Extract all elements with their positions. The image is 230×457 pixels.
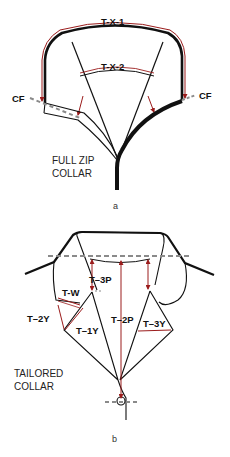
- full-zip-collar-figure: T-X-1 T-X-2 CF CF FULL ZIP COLLAR a: [12, 16, 212, 211]
- zipper-neckline-right: [117, 101, 182, 190]
- figure-b-caption: b: [112, 434, 117, 444]
- tailored-collar-figure: T–3P T-W T–2Y T–1Y T–2P T–3Y TAILORED CO…: [14, 232, 214, 444]
- tw-measure: [58, 298, 80, 305]
- t3y-measure: [138, 330, 171, 331]
- cf-label-left: CF: [12, 93, 25, 104]
- t1y-label: T–1Y: [76, 325, 99, 336]
- cf-label-right: CF: [199, 90, 212, 101]
- neckline-curve: [90, 259, 150, 263]
- t3y-label: T–3Y: [143, 318, 166, 329]
- collar-fold-left: [72, 42, 118, 160]
- tailored-title-line1: TAILORED: [14, 368, 63, 379]
- t2y-label: T–2Y: [27, 313, 50, 324]
- full-zip-title-line2: COLLAR: [52, 168, 92, 179]
- t3p-label: T–3P: [89, 274, 112, 285]
- tx1-label: T-X-1: [101, 16, 125, 27]
- right-collar-fall: [159, 263, 186, 305]
- tx2-label: T-X-2: [101, 61, 124, 72]
- t2p-label: T–2P: [111, 314, 134, 325]
- figure-a-caption: a: [113, 201, 118, 211]
- tw-label: T-W: [62, 287, 79, 298]
- right-neck-arrow: [148, 96, 154, 112]
- tailored-title-line2: COLLAR: [14, 381, 54, 392]
- collar-measurement-diagram: T-X-1 T-X-2 CF CF FULL ZIP COLLAR a: [0, 0, 230, 457]
- t2y-measure: [58, 305, 64, 329]
- full-zip-title-line1: FULL ZIP: [52, 155, 95, 166]
- cf-guide-right: [182, 95, 196, 100]
